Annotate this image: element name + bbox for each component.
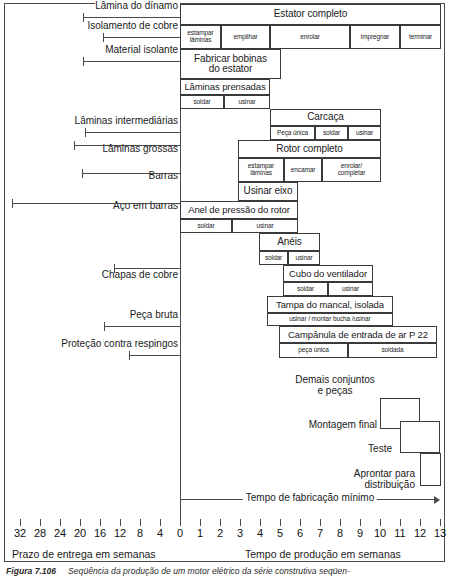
subtask-label: soldar xyxy=(297,286,314,293)
lead-line xyxy=(83,61,180,62)
material-lead-barras: Barras xyxy=(82,168,180,180)
task-estator-sub-empilhar[interactable]: empilhar xyxy=(221,25,270,49)
axis-tick-label: 11 xyxy=(394,527,405,539)
lead-line xyxy=(103,37,180,38)
min-manufacturing-time-arrow: Tempo de fabricação mínimo xyxy=(180,494,440,506)
subtask-label: encamar xyxy=(291,167,316,174)
lead-cap xyxy=(129,351,130,360)
task-aneis-title[interactable]: Anéis xyxy=(259,233,320,251)
lead-line xyxy=(82,173,180,174)
task-aprontar-distribuicao-box[interactable] xyxy=(420,453,441,486)
task-title: Anéis xyxy=(277,237,302,248)
task-aneis-sub-usinar[interactable]: usinar xyxy=(288,251,320,265)
task-anel-pressao-sub-usinar[interactable]: usinar xyxy=(232,219,298,233)
axis-tick xyxy=(320,519,321,526)
task-campanula-title[interactable]: Campânula de entrada de ar P 22 xyxy=(279,326,437,343)
label-aprontar-distribuicao: Aprontar para distribuição xyxy=(330,457,415,491)
task-laminas-prensadas-sub-usinar[interactable]: usinar xyxy=(224,95,270,109)
axis-tick xyxy=(420,519,421,526)
task-carcaca-sub-peca-unica[interactable]: Peça única xyxy=(270,126,315,140)
task-estator-sub-terminar[interactable]: terminar xyxy=(400,25,441,49)
task-carcaca-sub-soldar[interactable]: soldar xyxy=(315,126,348,140)
task-title: Fabricar bobinas do estator xyxy=(194,54,267,75)
task-campanula-sub-soldada[interactable]: soldada xyxy=(348,343,437,358)
task-aneis-sub-soldar[interactable]: soldar xyxy=(259,251,288,265)
task-title: Tampa do mancal, isolada xyxy=(276,300,384,310)
min-time-label: Tempo de fabricação mínimo xyxy=(243,492,377,503)
task-rotor-sub-enrolar-completar[interactable]: enrolar/ completar xyxy=(322,158,381,182)
task-usinar-eixo[interactable]: Usinar eixo xyxy=(238,182,298,201)
figure-container: Lâmina do dínamo Isolamento de cobre Mat… xyxy=(0,0,449,581)
figure-caption-text: Seqüência da produção de um motor elétri… xyxy=(68,566,350,576)
axis-tick-label: 4 xyxy=(157,527,163,539)
material-label: Proteção contra respingos xyxy=(61,338,180,350)
label-montagem-final: Montagem final xyxy=(295,408,377,430)
lead-cap xyxy=(82,169,83,178)
task-cubo-ventilador-title[interactable]: Cubo do ventilador xyxy=(283,265,373,282)
axis-tick xyxy=(380,519,381,526)
axis-tick-label: 12 xyxy=(414,527,426,539)
axis-tick xyxy=(120,519,121,526)
axis-tick xyxy=(340,519,341,526)
free-label-text: Demais conjuntos e peças xyxy=(295,374,374,396)
axis-tick xyxy=(400,519,401,526)
task-campanula-sub-peca-unica[interactable]: peça única xyxy=(279,343,348,358)
subtask-label: usinar xyxy=(356,130,373,137)
task-laminas-prensadas-sub-soldar[interactable]: soldar xyxy=(180,95,224,109)
axis-tick-label: 13 xyxy=(434,527,446,539)
lead-line xyxy=(129,355,180,356)
label-demais-conjuntos: Demais conjuntos e peças xyxy=(280,363,390,397)
task-estator-sub-estampar-laminas[interactable]: estampar lâminas xyxy=(180,25,221,49)
lead-line xyxy=(114,268,180,269)
gantt-chart: Lâmina do dínamo Isolamento de cobre Mat… xyxy=(0,0,449,581)
task-fabricar-bobinas[interactable]: Fabricar bobinas do estator xyxy=(180,49,281,79)
axis-tick-label: 3 xyxy=(237,527,243,539)
subtask-label: soldar xyxy=(265,255,282,262)
subtask-label: soldar xyxy=(193,99,210,106)
subtask-label: usinar xyxy=(342,286,359,293)
task-estator-sub-enrolar[interactable]: enrolar xyxy=(270,25,350,49)
task-title: Cubo do ventilador xyxy=(289,269,367,279)
task-title: Lâminas prensadas xyxy=(184,82,265,92)
subtask-label: soldar xyxy=(197,223,214,230)
task-estator-completo-title[interactable]: Estator completo xyxy=(180,4,441,25)
task-cubo-ventilador-sub-usinar[interactable]: usinar xyxy=(328,282,373,296)
task-rotor-sub-estampar-laminas[interactable]: estampar lâminas xyxy=(238,158,284,182)
subtask-label: estampar lâminas xyxy=(187,30,213,44)
task-teste-box[interactable] xyxy=(400,421,440,453)
subtask-label: impregnar xyxy=(361,34,389,41)
task-rotor-sub-encamar[interactable]: encamar xyxy=(284,158,322,182)
task-laminas-prensadas-title[interactable]: Lâminas prensadas xyxy=(180,79,270,95)
axis-tick xyxy=(300,519,301,526)
material-lead-isolamento-cobre: Isolamento de cobre xyxy=(103,32,180,44)
axis-caption-left: Prazo de entrega em semanas xyxy=(12,548,156,560)
material-lead-material-isolante: Material isolante xyxy=(83,56,180,68)
task-cubo-ventilador-sub-soldar[interactable]: soldar xyxy=(283,282,328,296)
material-label: Isolamento de cobre xyxy=(87,20,180,32)
axis-tick xyxy=(360,519,361,526)
axis-caption-right: Tempo de produção em semanas xyxy=(245,548,401,560)
lead-line xyxy=(85,132,180,133)
task-anel-pressao-sub-soldar[interactable]: soldar xyxy=(180,219,232,233)
caption-text: Tempo de produção em semanas xyxy=(245,548,401,560)
task-tampa-mancal-title[interactable]: Tampa do mancal, isolada xyxy=(267,296,393,313)
subtask-label: Peça única xyxy=(277,130,308,137)
subtask-label: usinar xyxy=(295,255,312,262)
axis-tick-label: 5 xyxy=(277,527,283,539)
task-carcaca-sub-usinar[interactable]: usinar xyxy=(348,126,381,140)
task-rotor-completo-title[interactable]: Rotor completo xyxy=(238,140,381,158)
task-estator-sub-impregnar[interactable]: impregnar xyxy=(350,25,400,49)
task-carcaca-title[interactable]: Carcaça xyxy=(270,109,381,126)
task-title: Campânula de entrada de ar P 22 xyxy=(288,330,428,340)
task-tampa-mancal-sub-usinar-montar[interactable]: usinar / montar bucha /usinar xyxy=(267,313,393,326)
subtask-label: usinar xyxy=(238,99,255,106)
task-anel-pressao-title[interactable]: Anel de pressão do rotor xyxy=(180,201,298,219)
material-label: Lâmina do dínamo xyxy=(95,0,180,12)
axis-tick-label: 2 xyxy=(217,527,223,539)
subtask-label: usinar xyxy=(256,223,273,230)
axis-tick-label: 8 xyxy=(137,527,143,539)
task-title: Anel de pressão do rotor xyxy=(188,205,290,215)
axis-tick-label: 32 xyxy=(14,527,26,539)
axis-tick-label: 16 xyxy=(94,527,106,539)
axis-tick xyxy=(40,519,41,526)
